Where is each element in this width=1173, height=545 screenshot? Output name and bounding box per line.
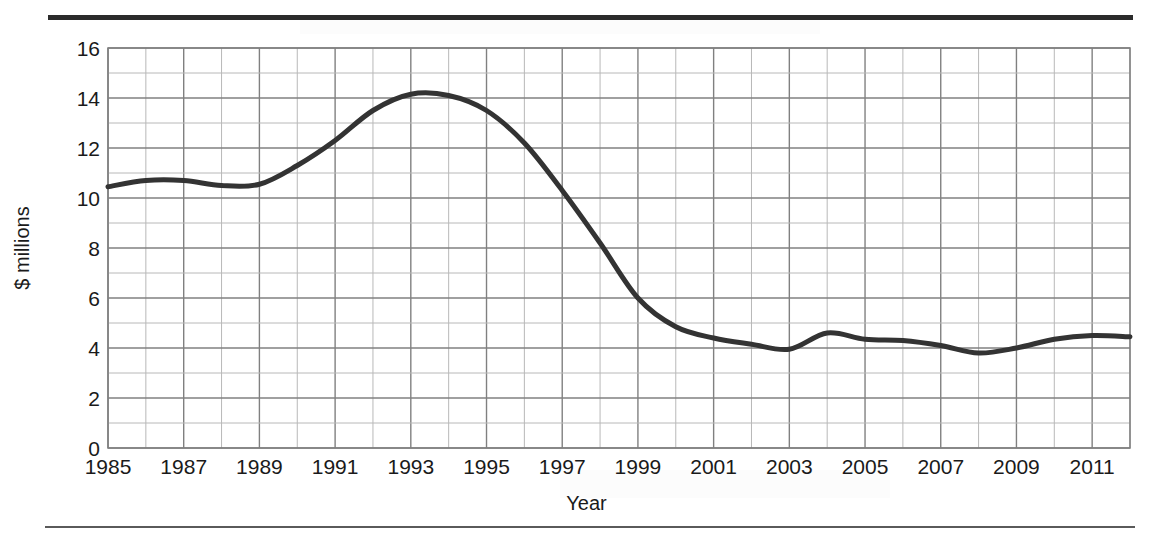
x-tick-label: 1993 xyxy=(387,456,434,477)
x-axis-title: Year xyxy=(0,492,1173,515)
y-axis-title: $ millions xyxy=(11,206,34,289)
x-tick-label: 1985 xyxy=(85,456,132,477)
x-tick-label: 2009 xyxy=(993,456,1040,477)
x-tick-label: 1995 xyxy=(463,456,510,477)
y-tick-label: 2 xyxy=(54,388,100,409)
chart-data-line xyxy=(108,48,1130,448)
y-tick-label: 4 xyxy=(54,338,100,359)
top-divider-rule xyxy=(48,15,1133,20)
x-tick-label: 1999 xyxy=(615,456,662,477)
y-tick-label: 12 xyxy=(54,138,100,159)
y-axis-tick-labels: 0246810121416 xyxy=(48,48,100,448)
chart-figure: 0246810121416 19851987198919911993199519… xyxy=(0,0,1173,545)
plot-area xyxy=(108,48,1130,448)
y-tick-label: 8 xyxy=(54,238,100,259)
x-tick-label: 1989 xyxy=(236,456,283,477)
x-tick-label: 1997 xyxy=(539,456,586,477)
x-tick-label: 2001 xyxy=(690,456,737,477)
x-tick-label: 2005 xyxy=(842,456,889,477)
bottom-divider-rule xyxy=(45,526,1135,528)
x-tick-label: 2011 xyxy=(1070,456,1115,477)
y-tick-label: 10 xyxy=(54,188,100,209)
x-tick-label: 2003 xyxy=(766,456,813,477)
y-tick-label: 14 xyxy=(54,88,100,109)
y-tick-label: 6 xyxy=(54,288,100,309)
x-tick-label: 1987 xyxy=(160,456,207,477)
x-tick-label: 1991 xyxy=(312,456,359,477)
x-axis-tick-labels: 1985198719891991199319951997199920012003… xyxy=(108,456,1130,486)
y-tick-label: 16 xyxy=(54,38,100,59)
x-tick-label: 2007 xyxy=(917,456,964,477)
scan-artifact xyxy=(300,20,820,34)
